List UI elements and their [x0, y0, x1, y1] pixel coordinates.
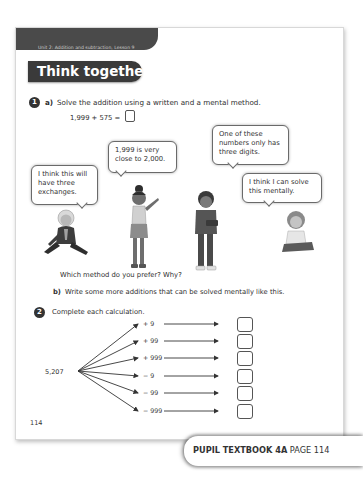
answer-box[interactable]: [237, 317, 253, 332]
answer-box[interactable]: [237, 334, 253, 349]
operation-label: − 999: [143, 407, 162, 414]
footer-label: PUPIL TEXTBOOK 4A PAGE 114: [193, 445, 329, 455]
answer-box[interactable]: [237, 369, 253, 384]
arrow-diagram: [16, 28, 345, 441]
answer-box[interactable]: [237, 386, 253, 401]
answer-box[interactable]: [237, 404, 253, 419]
operation-label: − 9: [143, 372, 154, 379]
footer-book: PUPIL TEXTBOOK 4A: [193, 445, 287, 455]
operation-label: − 99: [143, 389, 158, 396]
page-number: 114: [30, 419, 42, 427]
textbook-page: Unit 2: Addition and subtraction, Lesson…: [15, 27, 344, 440]
operation-label: + 999: [143, 354, 162, 361]
operation-label: + 9: [143, 320, 154, 327]
footer-tab: PUPIL TEXTBOOK 4A PAGE 114: [184, 436, 363, 466]
answer-box[interactable]: [237, 351, 253, 366]
operation-label: + 99: [143, 337, 158, 344]
footer-page: PAGE 114: [290, 445, 330, 455]
